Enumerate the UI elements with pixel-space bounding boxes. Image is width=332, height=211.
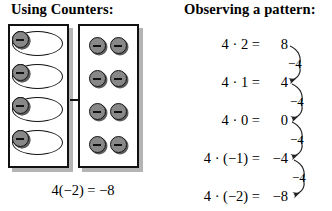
pattern-row: 4 · (−2) = −8 [166, 188, 306, 208]
box-outline [78, 24, 139, 168]
negative-counter [110, 70, 127, 87]
counter-row [82, 133, 135, 157]
negative-counter [12, 31, 29, 48]
counter-row [82, 34, 135, 58]
minus-sign-icon [114, 144, 122, 146]
pattern-row: 4 · 2 = 8 [166, 36, 306, 56]
pattern-result: −8 [262, 188, 288, 205]
total-counters-box [78, 24, 139, 168]
grouped-counters-box [8, 24, 69, 168]
box-outline [8, 24, 69, 168]
minus-sign-icon [114, 111, 122, 113]
minus-sign-icon [114, 45, 122, 47]
negative-counter [89, 136, 106, 153]
page-title-using-counters: Using Counters: [11, 1, 114, 18]
counter-group [12, 31, 65, 58]
minus-sign-icon [16, 39, 24, 41]
pattern-result: 4 [262, 74, 288, 91]
negative-counter [12, 130, 29, 147]
pattern-expression: 4 · (−1) = [204, 150, 260, 167]
minus-sign-icon [93, 111, 101, 113]
negative-counter [89, 103, 106, 120]
pattern-row: 4 · (−1) = −4 [166, 150, 306, 170]
minus-sign-icon [93, 78, 101, 80]
delta-label: −4 [290, 94, 304, 110]
page-title-observing-a-pattern: Observing a pattern: [184, 1, 316, 18]
delta-label: −4 [288, 56, 302, 72]
pattern-result: 0 [262, 112, 288, 129]
pattern-table-panel: 4 · 2 = 8 −4 4 · 1 = 4 −4 4 · 0 = 0 −4 4… [166, 20, 332, 211]
minus-sign-icon [16, 72, 24, 74]
pattern-expression: 4 · 1 = [222, 74, 260, 91]
minus-sign-icon [93, 144, 101, 146]
negative-counter [12, 97, 29, 114]
pattern-result: −4 [262, 150, 288, 167]
negative-counter [89, 70, 106, 87]
negative-counter [12, 64, 29, 81]
pattern-expression: 4 · 0 = [222, 112, 260, 129]
minus-sign-icon [93, 45, 101, 47]
counter-group [12, 97, 65, 124]
delta-label: −4 [290, 132, 304, 148]
pattern-expression: 4 · 2 = [222, 36, 260, 53]
delta-label: −4 [292, 170, 306, 186]
counter-row [82, 67, 135, 91]
counters-model-panel: 4(−2) = −8 [0, 20, 166, 211]
counter-group [12, 130, 65, 157]
minus-sign-icon [16, 105, 24, 107]
pattern-result: 8 [262, 36, 288, 53]
counter-row [82, 100, 135, 124]
minus-sign-icon [114, 78, 122, 80]
pattern-row: 4 · 1 = 4 [166, 74, 306, 94]
pattern-row: 4 · 0 = 0 [166, 112, 306, 132]
negative-counter [89, 37, 106, 54]
negative-counter [110, 37, 127, 54]
negative-counter [110, 103, 127, 120]
pattern-expression: 4 · (−2) = [204, 188, 260, 205]
minus-sign-icon [16, 138, 24, 140]
counters-equation: 4(−2) = −8 [0, 182, 166, 199]
negative-counter [110, 136, 127, 153]
counter-group [12, 64, 65, 91]
